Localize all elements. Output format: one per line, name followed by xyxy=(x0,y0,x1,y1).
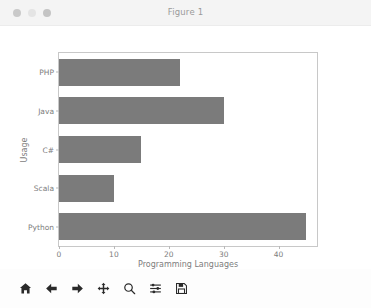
x-axis-tick-label: 20 xyxy=(164,250,174,259)
y-axis-tick-label: C# xyxy=(42,145,54,154)
x-axis-tick xyxy=(279,246,280,249)
bar xyxy=(59,213,306,240)
y-axis-tick-label: PHP xyxy=(39,68,54,77)
figure-window: Figure 1 Usage Programming Languages Pyt… xyxy=(0,0,371,308)
bar xyxy=(59,175,114,202)
x-axis-tick xyxy=(114,246,115,249)
y-axis-tick xyxy=(56,149,59,150)
x-axis-label: Programming Languages xyxy=(138,260,238,269)
chart-axes: Usage Programming Languages PythonScalaC… xyxy=(58,52,318,247)
x-axis-tick-label: 30 xyxy=(219,250,229,259)
bar xyxy=(59,136,141,163)
y-axis-tick xyxy=(56,226,59,227)
y-axis-tick xyxy=(56,188,59,189)
arrow-left-icon[interactable] xyxy=(44,281,59,296)
bar xyxy=(59,97,224,124)
x-axis-tick xyxy=(169,246,170,249)
x-axis-tick-label: 0 xyxy=(57,250,62,259)
y-axis-tick-label: Python xyxy=(28,222,54,231)
y-axis-tick xyxy=(56,110,59,111)
y-axis-tick-label: Scala xyxy=(34,184,54,193)
home-icon[interactable] xyxy=(18,281,33,296)
sliders-icon[interactable] xyxy=(148,281,163,296)
y-axis-tick xyxy=(56,72,59,73)
bars-container xyxy=(59,53,317,246)
x-axis-tick xyxy=(224,246,225,249)
window-titlebar: Figure 1 xyxy=(0,0,371,26)
y-axis-tick-label: Java xyxy=(38,106,54,115)
x-axis-tick xyxy=(59,246,60,249)
floppy-disk-icon[interactable] xyxy=(174,281,189,296)
arrow-right-icon[interactable] xyxy=(70,281,85,296)
x-axis-tick-label: 40 xyxy=(274,250,284,259)
magnifier-icon[interactable] xyxy=(122,281,137,296)
figure-canvas: Usage Programming Languages PythonScalaC… xyxy=(0,26,371,269)
x-axis-tick-label: 10 xyxy=(109,250,119,259)
bar xyxy=(59,59,180,86)
window-title: Figure 1 xyxy=(0,7,371,17)
move-icon[interactable] xyxy=(96,281,111,296)
navigation-toolbar xyxy=(0,269,371,308)
y-axis-label: Usage xyxy=(20,137,29,162)
